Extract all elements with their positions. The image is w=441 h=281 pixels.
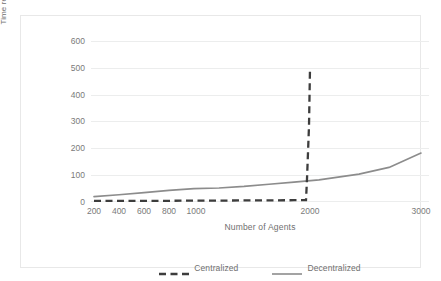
legend-label-centralized: Centralized (194, 263, 238, 273)
chart-screenshot: Time required (cycles) 600 500 400 300 2… (0, 0, 441, 281)
x-tick-label-2000: 2000 (301, 206, 320, 216)
x-tick-label-1000: 1000 (187, 206, 206, 216)
gridlines (91, 42, 429, 202)
dashed-line-icon (159, 264, 189, 272)
x-tick-label-400: 400 (112, 206, 126, 216)
y-axis-tick-labels: 600 500 400 300 200 100 0 (47, 41, 85, 202)
y-tick-label-500: 500 (51, 64, 85, 73)
y-tick-label-600: 600 (51, 37, 85, 46)
series-line-centralized (94, 68, 310, 201)
chart-legend: Centralized Decentralized (91, 260, 429, 276)
y-tick-label-0: 0 (51, 198, 85, 207)
legend-item-decentralized[interactable]: Decentralized (272, 263, 360, 273)
chart-frame: Time required (cycles) 600 500 400 300 2… (20, 15, 421, 268)
series-line-decentralized (94, 153, 421, 197)
y-tick-label-100: 100 (51, 171, 85, 180)
y-axis-title: Time required (cycles) (0, 0, 8, 54)
x-tick-label-3000: 3000 (412, 206, 431, 216)
y-tick-label-200: 200 (51, 144, 85, 153)
legend-label-decentralized: Decentralized (307, 263, 360, 273)
x-axis-tick-labels: 200 400 600 800 1000 2000 3000 (91, 206, 429, 220)
y-tick-label-400: 400 (51, 91, 85, 100)
x-tick-label-800: 800 (162, 206, 176, 216)
solid-line-icon (272, 264, 302, 272)
legend-item-centralized[interactable]: Centralized (159, 263, 238, 273)
y-tick-label-300: 300 (51, 117, 85, 126)
plot-svg (91, 41, 429, 202)
x-tick-label-200: 200 (87, 206, 101, 216)
plot-area (91, 41, 429, 202)
x-tick-label-600: 600 (137, 206, 151, 216)
x-axis-title: Number of Agents (91, 222, 429, 232)
